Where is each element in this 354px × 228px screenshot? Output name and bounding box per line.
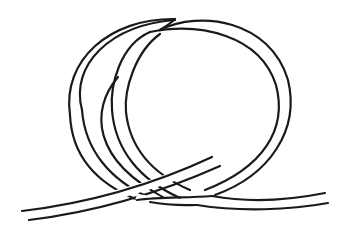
knot-illustration bbox=[0, 0, 354, 228]
knot-drawing bbox=[0, 0, 354, 228]
right-loop bbox=[112, 19, 291, 198]
